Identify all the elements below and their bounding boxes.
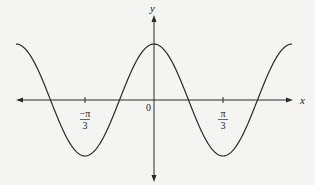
y-axis-label: y: [149, 2, 155, 14]
x-tick-label-numerator: π: [220, 108, 225, 119]
x-tick-label-numerator: −π: [80, 108, 91, 119]
x-axis-arrow-right: [286, 98, 293, 103]
x-tick-label-denominator: 3: [82, 120, 87, 131]
x-tick-label-denominator: 3: [221, 120, 226, 131]
axes: x y 0: [16, 2, 305, 182]
x-axis-arrow-left: [16, 98, 23, 103]
origin-label: 0: [146, 102, 151, 113]
cosine-graph: x y 0 −π3π3: [0, 0, 315, 185]
y-axis-arrow-bottom: [152, 175, 157, 182]
y-axis-arrow-top: [152, 15, 157, 22]
x-axis-label: x: [299, 94, 305, 106]
